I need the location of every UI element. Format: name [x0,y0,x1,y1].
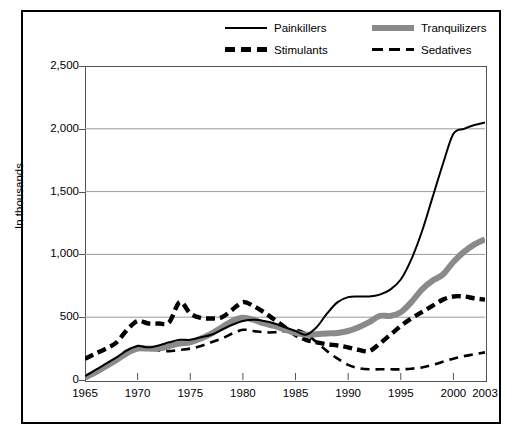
x-tick-label: 1970 [115,388,161,399]
x-tick-label: 1985 [273,388,319,399]
x-tick-label: 1975 [167,388,213,399]
x-tick-label: 2003 [462,388,508,399]
chart-figure: Painkillers Tranquilizers Stimulants Sed… [0,0,524,436]
x-tick-label: 1980 [220,388,266,399]
x-tick-label: 1995 [378,388,424,399]
x-tick-label: 1965 [62,388,108,399]
x-tick-label: 1990 [325,388,371,399]
x-axis-ticks: 196519701975198019851990199520002003 [0,0,524,436]
